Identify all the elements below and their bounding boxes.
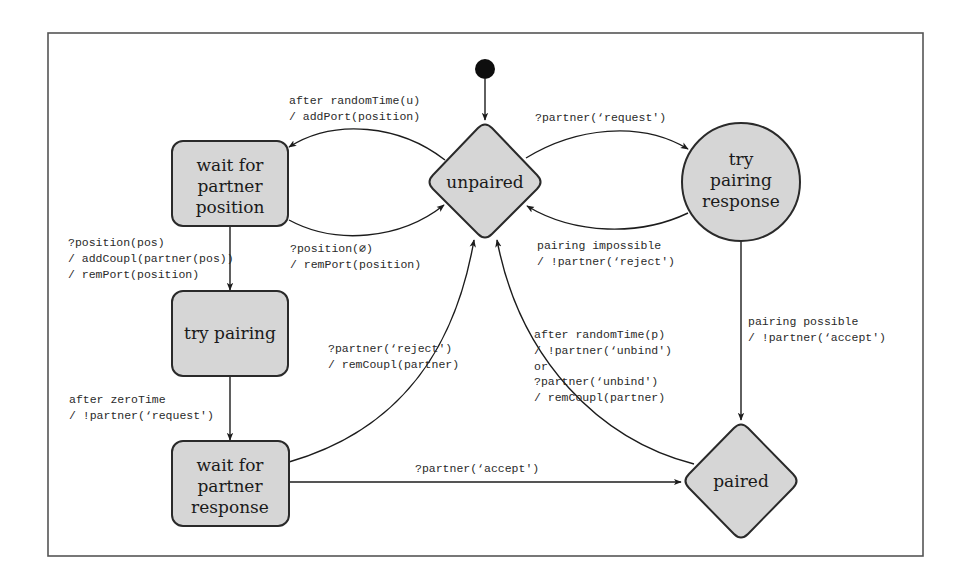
edge-label-line: ?partner(‘accept') xyxy=(415,462,539,475)
state-label-line: response xyxy=(702,191,780,211)
label-wait-response-to-paired: ?partner(‘accept') xyxy=(415,462,539,475)
edge-label-line: ?partner(‘unbind') xyxy=(534,375,658,388)
state-try-pairing-response: try pairing response xyxy=(682,123,800,241)
edge-label-line: ?partner(‘request') xyxy=(535,111,666,124)
state-label-line: wait for xyxy=(196,455,264,475)
edge-label-line: pairing possible xyxy=(748,315,859,328)
state-label-line: wait for xyxy=(196,155,264,175)
edge-label-line: / remPort(position) xyxy=(68,268,199,281)
edge-label-line: ?partner(‘reject') xyxy=(328,342,452,355)
edge-label-line: / !partner(‘accept') xyxy=(748,331,886,344)
state-wait-for-partner-response: wait for partner response xyxy=(172,441,289,526)
state-wait-for-partner-position: wait for partner position xyxy=(172,141,288,226)
state-label-line: response xyxy=(191,497,269,517)
edge-label-line: after zeroTime xyxy=(69,393,166,406)
edge-label-line: / remPort(position) xyxy=(290,258,421,271)
edge-label-line: / !partner(‘reject') xyxy=(537,255,675,268)
edge-label-line: / !partner(‘request') xyxy=(69,409,214,422)
state-label-line: partner xyxy=(197,476,263,496)
initial-state-dot xyxy=(475,59,495,79)
state-label: paired xyxy=(713,471,769,491)
state-try-pairing: try pairing xyxy=(172,291,288,376)
edge-label-line: pairing impossible xyxy=(537,239,661,252)
label-unpaired-to-try-response: ?partner(‘request') xyxy=(535,111,666,124)
edge-label-line: ?position(pos) xyxy=(68,236,165,249)
state-label: try pairing xyxy=(184,323,276,343)
edge-label-line: / !partner(‘unbind') xyxy=(534,344,672,357)
state-label-line: pairing xyxy=(710,170,772,190)
state-label: unpaired xyxy=(446,172,524,192)
edge-label-line: or xyxy=(534,360,548,373)
state-machine-diagram: wait for partner position unpaired try p… xyxy=(0,0,970,583)
state-label-line: position xyxy=(196,197,265,217)
edge-label-line: / addPort(position) xyxy=(289,110,420,123)
edge-label-line: / remCoupl(partner) xyxy=(534,391,665,404)
edge-label-line: / remCoupl(partner) xyxy=(328,358,459,371)
state-label-line: try xyxy=(729,149,754,169)
edge-label-line: ?position(∅) xyxy=(290,242,373,255)
edge-label-line: after randomTime(p) xyxy=(534,328,665,341)
edge-label-line: / addCoupl(partner(pos)) xyxy=(68,252,234,265)
state-label-line: partner xyxy=(197,176,263,196)
edge-label-line: after randomTime(u) xyxy=(289,94,420,107)
